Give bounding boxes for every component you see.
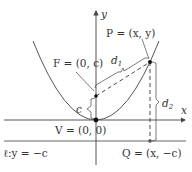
p-label: P = (x, y) <box>106 27 155 39</box>
c-label: c <box>76 103 82 115</box>
f-pointer <box>76 72 94 91</box>
q-label: Q = (x, −c) <box>122 147 182 159</box>
x-axis-label: x <box>181 104 187 116</box>
c-brace <box>87 98 95 119</box>
f-label: F = (0, c) <box>53 57 103 69</box>
d2-label: d2 <box>162 97 174 111</box>
point-q <box>148 139 152 143</box>
point-f <box>94 94 98 98</box>
point-v <box>94 118 99 123</box>
p-pointer <box>142 39 149 59</box>
directrix-label: ℓ:y = −c <box>3 147 48 159</box>
y-axis-label: y <box>100 8 108 20</box>
d1-label: d1 <box>111 54 122 68</box>
diagram-canvas: y x P = (x, y) F = (0, c) V = (0, 0) Q =… <box>0 0 192 172</box>
parabola-diagram: y x P = (x, y) F = (0, c) V = (0, 0) Q =… <box>0 0 192 172</box>
point-p <box>148 60 152 64</box>
v-label: V = (0, 0) <box>54 124 106 136</box>
d2-brace <box>152 62 159 141</box>
